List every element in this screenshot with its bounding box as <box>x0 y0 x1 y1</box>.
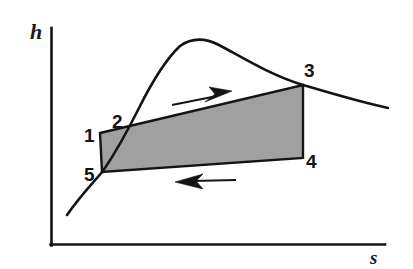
state-point-label-2: 2 <box>112 111 123 132</box>
y-axis-label: h <box>30 19 42 44</box>
hs-diagram-figure: h s 1 2 3 4 5 <box>0 0 413 269</box>
return-process-arrow <box>175 174 236 189</box>
state-point-label-4: 4 <box>306 151 317 172</box>
state-point-label-5: 5 <box>84 164 95 185</box>
state-point-label-1: 1 <box>84 125 95 146</box>
state-point-label-3: 3 <box>304 60 315 81</box>
hs-diagram-canvas: h s 1 2 3 4 5 <box>0 0 413 269</box>
forward-process-arrow <box>172 87 232 105</box>
x-axis-label: s <box>369 247 377 268</box>
